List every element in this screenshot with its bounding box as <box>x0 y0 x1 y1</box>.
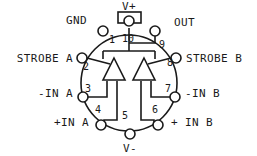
pinout-diagram-page: 1 2 3 4 5 6 7 8 9 10 GND STROBE A -IN A … <box>0 0 257 156</box>
pin-pad-4[interactable] <box>96 120 106 130</box>
pin-pad-1[interactable] <box>98 26 108 36</box>
pin-number-4: 4 <box>95 104 101 115</box>
pin-number-7: 7 <box>165 83 171 94</box>
pin-pad-7[interactable] <box>170 92 180 102</box>
pin-number-5: 5 <box>122 110 128 121</box>
pin-label-neg-in-a: -IN A <box>38 87 73 100</box>
pin-pad-9[interactable] <box>150 26 160 36</box>
pin-label-v-minus: V- <box>123 142 137 155</box>
pin-number-9: 9 <box>159 39 165 50</box>
pin-label-pos-in-b: + IN B <box>171 116 213 129</box>
pin-number-3: 3 <box>85 83 91 94</box>
comparator-a-triangle <box>103 58 125 80</box>
wire-pin2-strobe-a <box>87 58 110 64</box>
pin-number-10: 10 <box>122 33 134 44</box>
pin-label-neg-in-b: -IN B <box>185 87 220 100</box>
pin-label-v-plus: V+ <box>122 0 136 13</box>
pin-label-strobe-a: STROBE A <box>17 52 73 65</box>
ic-pinout-diagram: 1 2 3 4 5 6 7 8 9 10 GND STROBE A -IN A … <box>0 0 257 156</box>
pin-number-2: 2 <box>83 61 89 72</box>
pin-pad-5[interactable] <box>125 129 135 139</box>
pin-number-1: 1 <box>109 34 115 45</box>
pin-label-gnd: GND <box>66 14 87 27</box>
pin-number-6: 6 <box>152 104 158 115</box>
wire-pin4-posin-a <box>104 81 117 122</box>
pin-label-strobe-b: STROBE B <box>186 52 242 65</box>
wire-pin6-posin-b <box>141 81 154 122</box>
pin-pad-6[interactable] <box>153 120 163 130</box>
comparator-b-triangle <box>133 58 155 80</box>
pin-pad-10[interactable] <box>124 16 134 26</box>
pin-label-out: OUT <box>174 16 195 29</box>
pin-label-pos-in-a: +IN A <box>54 116 89 129</box>
pin-number-8: 8 <box>167 57 173 68</box>
